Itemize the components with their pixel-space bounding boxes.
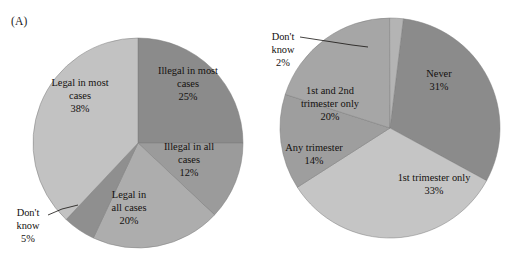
pie-b: Never31%1st trimester only33%Any trimest…: [271, 18, 500, 238]
pie-a: Illegal in mostcases25%Illegal in allcas…: [16, 38, 243, 248]
slice-label: Don'tknow5%: [16, 207, 40, 244]
pie-chart-figure: (A) (B) Illegal in mostcases25%Illegal i…: [0, 0, 507, 258]
slice-label: Don'tknow2%: [271, 31, 295, 68]
pie-charts-svg: Illegal in mostcases25%Illegal in allcas…: [0, 0, 507, 258]
